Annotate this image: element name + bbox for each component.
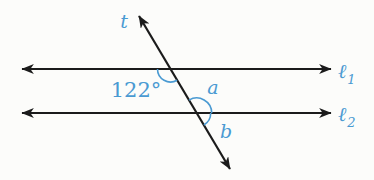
angle-b-label: b (220, 120, 232, 142)
line-l1-subscript: 1 (347, 72, 355, 87)
line-l1-label: ℓ1 (338, 59, 356, 87)
angle-a-label: a (207, 76, 218, 98)
line-l1-symbol: ℓ (338, 59, 347, 83)
line-l2-subscript: 2 (346, 115, 355, 130)
line-l2-label: ℓ2 (338, 102, 356, 130)
line-l2-symbol: ℓ (338, 102, 347, 126)
diagram-canvas: t 122° a b ℓ1 ℓ2 (0, 0, 374, 180)
angle-arc-b (204, 113, 211, 125)
transversal-label: t (120, 10, 128, 32)
geometry-diagram: t 122° a b ℓ1 ℓ2 (0, 0, 374, 180)
angle-122-label: 122° (111, 78, 162, 102)
